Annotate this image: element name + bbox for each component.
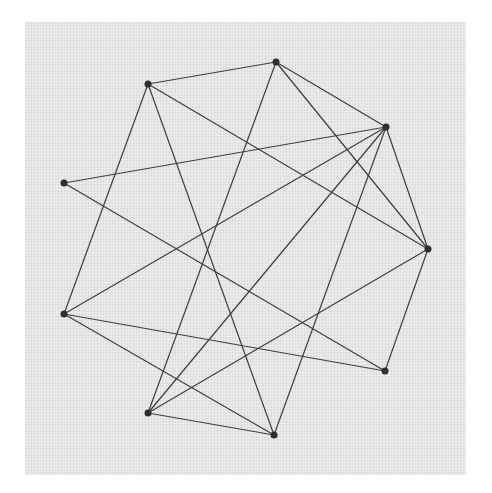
edge-B-C [276,62,386,127]
node-F [271,432,278,439]
edge-C-D [386,127,428,249]
edge-C-G [148,127,386,413]
edge-C-F [274,127,386,435]
edge-D-G [148,249,428,413]
node-B [273,59,280,66]
edge-A-F [148,84,274,435]
node-G [145,410,152,417]
diagram-canvas [0,0,492,493]
edge-A-I [64,84,148,314]
node-E [382,368,389,375]
node-C [383,124,390,131]
edge-A-B [148,62,276,84]
graph [0,0,492,493]
edge-A-D [148,84,428,249]
edge-B-G [148,62,276,413]
edge-D-E [385,249,428,371]
node-H [61,180,68,187]
node-layer [61,59,432,439]
node-D [425,246,432,253]
node-A [145,81,152,88]
node-I [61,311,68,318]
edge-layer [64,62,428,435]
